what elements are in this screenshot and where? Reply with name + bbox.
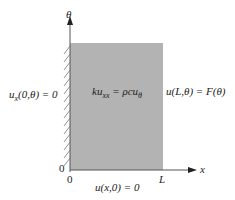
origin-horizontal-label: 0 xyxy=(67,174,73,185)
bottom-boundary-condition: u(x,0) = 0 xyxy=(95,182,139,193)
theta-axis-label: θ xyxy=(66,9,71,20)
left-boundary-condition: ux(0,θ) = 0 xyxy=(9,89,57,103)
domain-rectangle xyxy=(70,43,163,170)
origin-vertical-label: 0 xyxy=(59,163,65,174)
pde-equation: kuxx = ρcuθ xyxy=(92,86,142,100)
right-boundary-condition: u(L,θ) = F(θ) xyxy=(166,86,225,97)
insulated-boundary-hatching xyxy=(64,46,70,166)
x-axis-arrow-icon xyxy=(188,167,197,173)
length-label: L xyxy=(159,174,165,185)
x-axis-label: x xyxy=(200,164,205,175)
